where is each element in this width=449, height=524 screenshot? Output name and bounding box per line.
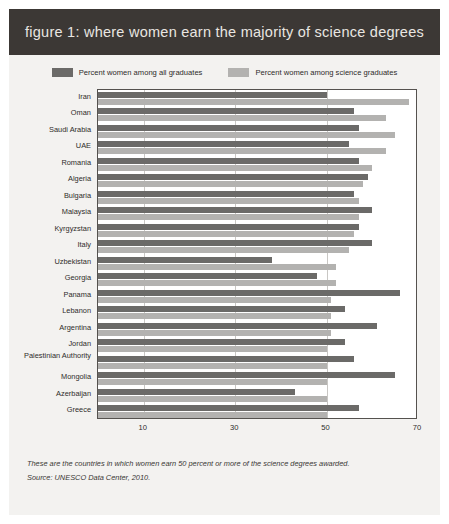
legend-item-science-graduates: Percent women among science graduates: [228, 68, 397, 77]
figure-card: figure 1: where women earn the majority …: [9, 9, 440, 515]
bar-percent-women-among-science-graduates-palestinian-authority: [98, 363, 327, 369]
bar-percent-women-among-all-graduates-bulgaria: [98, 191, 354, 197]
bar-percent-women-among-science-graduates-greece: [98, 412, 327, 418]
bar-percent-women-among-all-graduates-oman: [98, 108, 354, 114]
y-axis-label-italy: Italy: [23, 241, 91, 249]
legend-swatch-icon-science-graduates: [228, 68, 249, 77]
chart-legend: Percent women among all graduates Percen…: [9, 63, 440, 81]
bar-percent-women-among-all-graduates-saudi-arabia: [98, 125, 359, 131]
legend-item-all-graduates: Percent women among all graduates: [52, 68, 203, 77]
bar-percent-women-among-science-graduates-oman: [98, 115, 386, 121]
y-axis-label-palestinian-authority: Palestinian Authority: [23, 352, 91, 360]
gridline: [235, 90, 236, 419]
bar-percent-women-among-all-graduates-argentina: [98, 323, 377, 329]
bar-percent-women-among-science-graduates-bulgaria: [98, 198, 359, 204]
bar-percent-women-among-science-graduates-saudi-arabia: [98, 132, 395, 138]
bar-percent-women-among-all-graduates-azerbaijan: [98, 389, 295, 395]
gridline: [327, 90, 328, 419]
y-axis-label-uae: UAE: [23, 142, 91, 150]
y-axis-label-greece: Greece: [23, 406, 91, 414]
bar-percent-women-among-science-graduates-malaysia: [98, 214, 359, 220]
bar-percent-women-among-science-graduates-mongolia: [98, 379, 327, 385]
y-axis-label-mongolia: Mongolia: [23, 373, 91, 381]
bar-percent-women-among-all-graduates-panama: [98, 290, 400, 296]
figure-footnote: These are the countries in which women e…: [27, 457, 427, 485]
bar-percent-women-among-science-graduates-azerbaijan: [98, 396, 327, 402]
x-axis-tick-10: 10: [138, 423, 146, 432]
legend-label-all-graduates: Percent women among all graduates: [79, 68, 203, 77]
bar-percent-women-among-all-graduates-greece: [98, 405, 359, 411]
figure-header-banner: figure 1: where women earn the majority …: [9, 9, 440, 55]
bar-percent-women-among-all-graduates-mongolia: [98, 372, 395, 378]
x-axis-tick-70: 70: [413, 423, 421, 432]
bar-percent-women-among-all-graduates-lebanon: [98, 306, 345, 312]
bar-percent-women-among-science-graduates-kyrgyzstan: [98, 231, 354, 237]
bar-percent-women-among-all-graduates-uzbekistan: [98, 257, 272, 263]
y-axis-label-kyrgyzstan: Kyrgyzstan: [23, 225, 91, 233]
y-axis-label-saudi-arabia: Saudi Arabia: [23, 126, 91, 134]
y-axis-label-azerbaijan: Azerbaijan: [23, 390, 91, 398]
bar-percent-women-among-science-graduates-georgia: [98, 280, 336, 286]
bar-percent-women-among-all-graduates-malaysia: [98, 207, 372, 213]
bar-percent-women-among-all-graduates-palestinian-authority: [98, 356, 354, 362]
y-axis-label-algeria: Algeria: [23, 175, 91, 183]
y-axis-label-romania: Romania: [23, 159, 91, 167]
bar-percent-women-among-science-graduates-algeria: [98, 181, 363, 187]
chart-plot-wrapper: IranOmanSaudi ArabiaUAERomaniaAlgeriaBul…: [25, 89, 425, 444]
bar-percent-women-among-science-graduates-argentina: [98, 330, 331, 336]
y-axis-label-malaysia: Malaysia: [23, 208, 91, 216]
y-axis-label-georgia: Georgia: [23, 274, 91, 282]
bar-percent-women-among-all-graduates-kyrgyzstan: [98, 224, 359, 230]
footnote-line-description: These are the countries in which women e…: [27, 457, 427, 471]
bar-percent-women-among-all-graduates-romania: [98, 158, 359, 164]
y-axis-category-labels: IranOmanSaudi ArabiaUAERomaniaAlgeriaBul…: [25, 89, 95, 419]
bar-percent-women-among-science-graduates-jordan: [98, 346, 327, 352]
bar-percent-women-among-science-graduates-lebanon: [98, 313, 331, 319]
bar-percent-women-among-science-graduates-uzbekistan: [98, 264, 336, 270]
bar-percent-women-among-all-graduates-georgia: [98, 273, 317, 279]
bar-percent-women-among-all-graduates-iran: [98, 92, 327, 98]
y-axis-label-uzbekistan: Uzbekistan: [23, 258, 91, 266]
y-axis-label-panama: Panama: [23, 291, 91, 299]
y-axis-label-bulgaria: Bulgaria: [23, 192, 91, 200]
bar-percent-women-among-science-graduates-panama: [98, 297, 331, 303]
y-axis-label-oman: Oman: [23, 109, 91, 117]
bar-percent-women-among-science-graduates-italy: [98, 247, 349, 253]
y-axis-label-argentina: Argentina: [23, 324, 91, 332]
bar-percent-women-among-science-graduates-iran: [98, 99, 409, 105]
bar-percent-women-among-all-graduates-uae: [98, 141, 349, 147]
figure-root: figure 1: where women earn the majority …: [0, 0, 449, 524]
y-axis-label-lebanon: Lebanon: [23, 307, 91, 315]
legend-label-science-graduates: Percent women among science graduates: [255, 68, 397, 77]
bar-percent-women-among-science-graduates-romania: [98, 165, 372, 171]
gridline: [144, 90, 145, 419]
bar-percent-women-among-all-graduates-jordan: [98, 339, 345, 345]
x-axis-tick-labels: 10305070: [97, 421, 417, 437]
chart-plot-area: [97, 89, 417, 419]
bar-percent-women-among-all-graduates-algeria: [98, 174, 368, 180]
figure-title: figure 1: where women earn the majority …: [9, 9, 440, 55]
bar-percent-women-among-all-graduates-italy: [98, 240, 372, 246]
bar-percent-women-among-science-graduates-uae: [98, 148, 386, 154]
y-axis-label-iran: Iran: [23, 93, 91, 101]
y-axis-label-jordan: Jordan: [23, 340, 91, 348]
legend-swatch-icon-all-graduates: [52, 68, 73, 77]
x-axis-tick-30: 30: [230, 423, 238, 432]
x-axis-tick-50: 50: [321, 423, 329, 432]
footnote-line-source: Source: UNESCO Data Center, 2010.: [27, 471, 427, 485]
